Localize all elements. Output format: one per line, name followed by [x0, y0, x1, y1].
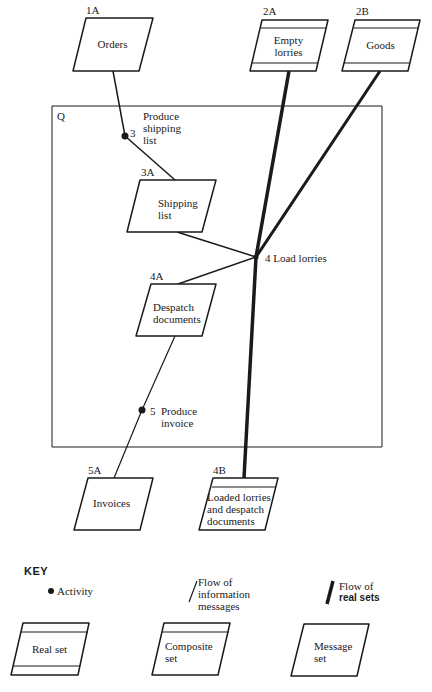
- key-activity-label: Activity: [57, 585, 93, 597]
- key-message-set-label: Message set: [314, 640, 353, 664]
- set-empty-lorries-id: 2A: [263, 5, 276, 17]
- set-orders-id: 1A: [86, 4, 99, 16]
- key-thin-flow-icon: [189, 581, 197, 602]
- flow-shipping-list-to-4: [177, 232, 256, 257]
- boundary-q-label: Q: [57, 110, 65, 122]
- key-real-set-label: Real set: [32, 643, 67, 655]
- flow-orders-to-3: [113, 71, 125, 136]
- flow-5-to-invoices: [114, 410, 142, 478]
- activity-3-dot[interactable]: [122, 133, 129, 140]
- activity-5-label: Produce invoice: [161, 405, 197, 429]
- flow-4-to-loaded-lorries: [244, 257, 256, 478]
- activity-5-dot[interactable]: [139, 407, 146, 414]
- set-goods-id: 2B: [356, 5, 369, 17]
- set-empty-lorries-label: Empty lorries: [266, 34, 311, 58]
- key-thick-flow-icon: [327, 581, 333, 604]
- flow-despatch-documents-to-5: [142, 336, 175, 410]
- set-despatch-documents-label: Despatch documents: [153, 301, 201, 325]
- flow-empty-lorries-to-4: [256, 71, 289, 257]
- activity-4-dot[interactable]: [254, 255, 259, 260]
- flow-4-to-despatch-documents: [178, 257, 256, 284]
- flow-goods-to-4: [256, 71, 380, 257]
- activity-4-label: 4 Load lorries: [265, 252, 327, 264]
- key-activity-dot-icon: [48, 588, 54, 594]
- set-loaded-lorries-label: Loaded lorries and despatch documents: [207, 491, 271, 527]
- key-info-flow-label: Flow of information messages: [198, 576, 250, 612]
- set-shipping-list-label: Shipping list: [158, 197, 198, 221]
- key-title: KEY: [24, 565, 48, 577]
- set-invoices-label: Invoices: [93, 497, 130, 509]
- activity-3-label: Produce shipping list: [143, 110, 181, 146]
- set-loaded-lorries-id: 4B: [213, 464, 226, 476]
- set-orders-label: Orders: [90, 38, 135, 50]
- activity-3-number: 3: [130, 127, 136, 139]
- activity-5-number: 5: [150, 405, 156, 417]
- set-shipping-list-id: 3A: [141, 166, 154, 178]
- key-real-flow-label: Flow of real sets: [339, 580, 380, 604]
- key-composite-set-label: Composite set: [165, 640, 213, 664]
- set-goods-label: Goods: [358, 39, 403, 51]
- set-invoices-id: 5A: [88, 464, 101, 476]
- boundary-q: [52, 106, 382, 447]
- set-despatch-documents-id: 4A: [150, 270, 163, 282]
